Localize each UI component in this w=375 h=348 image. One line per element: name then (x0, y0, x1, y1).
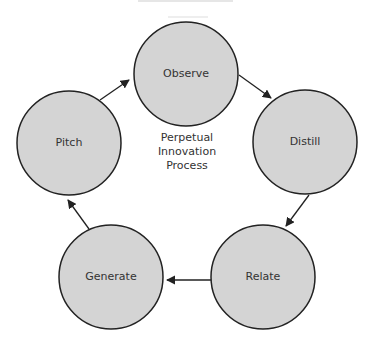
node-distill: Distill (253, 90, 357, 194)
arrow-distill-to-relate (286, 195, 309, 226)
node-label: Distill (290, 135, 321, 148)
center-title-line: Perpetual (161, 131, 213, 144)
node-observe: Observe (134, 22, 238, 126)
process-diagram: Observe Distill Relate Generate Pitch Pe… (0, 0, 375, 348)
node-relate: Relate (211, 225, 315, 329)
arrow-pitch-to-observe (100, 80, 129, 100)
header-fragment (168, 16, 208, 18)
center-title: Perpetual Innovation Process (158, 131, 216, 172)
node-label: Observe (163, 67, 209, 80)
node-label: Pitch (56, 136, 83, 149)
arrow-generate-to-pitch (68, 200, 89, 229)
node-generate: Generate (59, 225, 163, 329)
header-fragment (138, 0, 233, 2)
center-title-line: Innovation (158, 145, 216, 158)
node-label: Relate (246, 270, 281, 283)
arrow-observe-to-distill (239, 75, 271, 98)
center-title-line: Process (166, 159, 208, 172)
node-label: Generate (85, 270, 137, 283)
node-pitch: Pitch (17, 91, 121, 195)
